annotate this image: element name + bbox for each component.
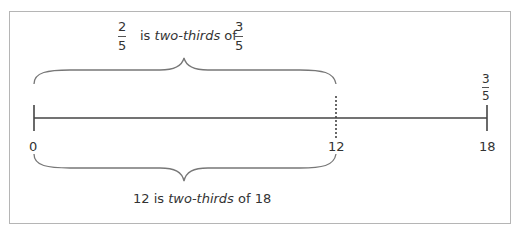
top-statement-text: is two-thirds of [140,28,237,43]
text-emphasis: two-thirds [168,191,234,206]
numerator: 2 [118,20,126,34]
fraction-bar [235,36,243,37]
text-pre: 12 is [133,191,168,206]
end-fraction-three-fifths: 3 5 [482,73,490,102]
numerator: 3 [482,73,490,85]
denominator: 5 [118,39,126,53]
text-post: of 18 [234,191,271,206]
bottom-statement-text: 12 is two-thirds of 18 [133,191,271,206]
text-emphasis: two-thirds [155,28,221,43]
fraction-bar [118,36,126,37]
lower-brace [34,154,336,181]
tick-label-18: 18 [479,139,496,154]
denominator: 5 [235,39,243,53]
tick-label-12: 12 [328,139,345,154]
tick-label-0: 0 [29,139,37,154]
numerator: 3 [235,20,243,34]
text-pre: is [140,28,155,43]
fraction-bar [482,87,489,88]
fraction-three-fifths: 3 5 [235,20,243,53]
denominator: 5 [482,90,490,102]
fraction-two-fifths: 2 5 [118,20,126,53]
upper-brace [34,58,336,84]
